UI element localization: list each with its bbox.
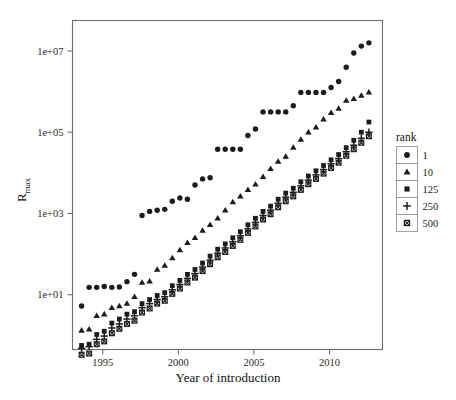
y-axis-title-subscript: max bbox=[22, 177, 32, 193]
legend-label: 500 bbox=[423, 218, 439, 229]
data-point bbox=[359, 130, 364, 135]
x-tick-label: 2005 bbox=[243, 357, 264, 368]
data-point bbox=[291, 103, 296, 108]
x-tick-label: 1995 bbox=[92, 357, 113, 368]
data-point bbox=[139, 213, 144, 218]
data-point bbox=[223, 147, 228, 152]
data-point bbox=[298, 90, 303, 95]
data-point bbox=[117, 284, 122, 289]
data-point bbox=[306, 90, 311, 95]
legend-label: 10 bbox=[423, 167, 434, 178]
y-axis-title-base: R bbox=[14, 193, 29, 202]
data-point bbox=[94, 285, 99, 290]
data-point bbox=[215, 147, 220, 152]
data-point bbox=[124, 279, 129, 284]
legend-marker-square bbox=[404, 186, 409, 191]
legend-title: rank bbox=[396, 131, 417, 143]
data-point bbox=[185, 197, 190, 202]
legend-label: 250 bbox=[423, 201, 439, 212]
data-point bbox=[321, 90, 326, 95]
data-point bbox=[177, 195, 182, 200]
legend-label: 1 bbox=[423, 150, 428, 161]
data-point bbox=[238, 147, 243, 152]
legend-marker-circle bbox=[404, 152, 410, 158]
data-point bbox=[192, 182, 197, 187]
y-tick-label: 1e+07 bbox=[37, 46, 63, 57]
data-point bbox=[230, 147, 235, 152]
x-tick-label: 2000 bbox=[168, 357, 189, 368]
chart-figure: 1e+011e+031e+051e+07 1995200020052010 Ye… bbox=[0, 0, 456, 400]
data-point bbox=[102, 284, 107, 289]
data-point bbox=[147, 209, 152, 214]
data-point bbox=[268, 109, 273, 114]
data-point bbox=[207, 175, 212, 180]
y-tick-label: 1e+01 bbox=[37, 289, 63, 300]
data-point bbox=[366, 120, 371, 125]
data-point bbox=[200, 176, 205, 181]
data-point bbox=[154, 207, 159, 212]
data-point bbox=[86, 285, 91, 290]
data-point bbox=[245, 133, 250, 138]
data-point bbox=[132, 272, 137, 277]
data-point bbox=[79, 303, 84, 308]
data-point bbox=[170, 199, 175, 204]
data-point bbox=[275, 109, 280, 114]
y-tick-label: 1e+03 bbox=[37, 208, 63, 219]
data-point bbox=[344, 65, 349, 70]
x-axis-title: Year of introduction bbox=[176, 370, 281, 385]
data-point bbox=[260, 109, 265, 114]
x-tick-label: 2010 bbox=[319, 357, 340, 368]
y-tick-label: 1e+05 bbox=[37, 127, 63, 138]
data-point bbox=[328, 85, 333, 90]
data-point bbox=[313, 90, 318, 95]
data-point bbox=[366, 40, 371, 45]
data-point bbox=[351, 50, 356, 55]
data-point bbox=[283, 109, 288, 114]
data-point bbox=[359, 43, 364, 48]
figure-background bbox=[0, 0, 456, 400]
scatter-plot: 1e+011e+031e+051e+07 1995200020052010 Ye… bbox=[0, 0, 456, 400]
data-point bbox=[253, 126, 258, 131]
data-point bbox=[162, 207, 167, 212]
legend-label: 125 bbox=[423, 184, 439, 195]
data-point bbox=[336, 79, 341, 84]
data-point bbox=[109, 285, 114, 290]
